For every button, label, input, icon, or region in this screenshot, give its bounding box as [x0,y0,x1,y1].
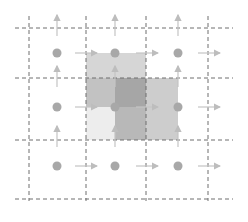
center-overlap-region [115,78,146,107]
grid-point-dot [111,162,120,171]
grid-point-dot [111,49,120,58]
grid-point-dot [174,103,183,112]
grid-point-dot [174,162,183,171]
grid-diagram [0,0,248,222]
lower-middle-region [115,107,146,140]
lower-left-faint-region [86,107,115,140]
shaded-squares [86,53,178,140]
grid-point-dot [53,162,62,171]
grid-point-dot [53,103,62,112]
grid-point-dot [53,49,62,58]
grid-point-dot [111,103,120,112]
grid-point-dot [174,49,183,58]
